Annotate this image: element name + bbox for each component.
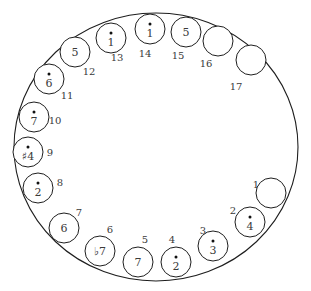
slot-14: 114 [135,14,165,59]
slot-note: 2 [35,186,42,199]
slot-note: 6 [61,222,68,235]
slot-circle [256,178,286,208]
slot-15: 515 [171,17,201,61]
slot-position-label: 5 [142,234,148,245]
slot-position-label: 1 [253,179,259,190]
slot-7: 67 [49,207,82,243]
slot-10: 710 [19,102,61,132]
slot-9: ♯49 [13,137,53,167]
slot-note: 5 [183,26,190,39]
octave-dot-icon [212,240,215,243]
diagram-canvas: 142332475♭766728♯49710611512113114515161… [0,0,311,291]
octave-dot-icon [249,216,252,219]
octave-dot-icon [33,111,36,114]
slot-position-label: 15 [172,50,185,61]
slot-12: 512 [60,37,95,77]
slot-note: 5 [72,46,79,59]
slot-1: 1 [253,178,286,208]
slot-position-label: 17 [230,81,243,92]
slot-note: ♯4 [22,150,34,163]
slot-circle [203,26,233,56]
slot-note: 2 [173,260,180,273]
slot-4: 24 [161,234,191,277]
slot-3: 33 [198,225,228,261]
octave-dot-icon [48,73,51,76]
slot-position-label: 12 [83,66,96,77]
slot-position-label: 4 [169,234,175,245]
slot-position-label: 9 [47,147,53,158]
slot-note: 3 [210,244,217,257]
slot-note: ♭7 [94,245,106,258]
slot-position-label: 16 [200,58,213,69]
slot-position-label: 11 [61,90,74,101]
slot-position-label: 3 [200,225,206,236]
instrument-slot-diagram: 142332475♭766728♯49710611512113114515161… [0,0,311,291]
slot-note: 1 [147,27,154,40]
octave-dot-icon [27,146,30,149]
slot-position-label: 13 [111,52,124,63]
slot-note: 7 [31,115,38,128]
octave-dot-icon [110,32,113,35]
octave-dot-icon [175,256,178,259]
slot-position-label: 6 [107,224,113,235]
slot-8: 28 [23,173,63,203]
slot-note: 7 [135,256,142,269]
slot-position-label: 2 [230,205,236,216]
slot-circle [236,45,266,75]
slot-17: 17 [230,45,266,92]
slot-2: 42 [230,205,265,237]
slot-position-label: 7 [76,207,82,218]
slot-position-label: 14 [139,48,152,59]
slot-11: 611 [34,64,73,101]
slot-13: 113 [96,23,126,63]
slot-16: 16 [200,26,233,69]
slot-note: 1 [108,36,115,49]
slot-note: 6 [46,77,53,90]
slot-position-label: 10 [49,115,62,126]
slot-note: 4 [247,220,254,233]
octave-dot-icon [37,182,40,185]
slot-5: 75 [123,234,153,277]
octave-dot-icon [149,23,152,26]
slot-6: ♭76 [85,224,115,266]
slot-position-label: 8 [57,177,63,188]
